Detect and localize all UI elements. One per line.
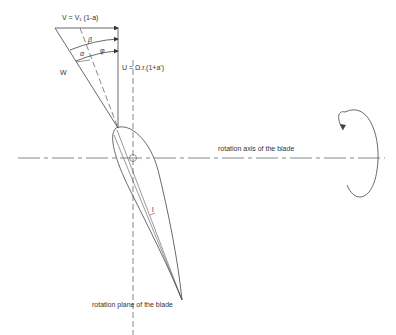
mean-camber-line bbox=[114, 135, 182, 300]
velocity-w-line bbox=[55, 28, 118, 128]
chord-tick bbox=[150, 213, 155, 215]
rotation-plane-label: rotation plane of the blade bbox=[92, 301, 173, 309]
chord-line bbox=[117, 130, 182, 300]
angle-phi-label: φ bbox=[100, 47, 105, 55]
angle-alpha-label: α bbox=[80, 50, 85, 57]
rotation-axis-label: rotation axis of the blade bbox=[218, 145, 294, 152]
rotation-arrow-icon bbox=[339, 110, 378, 197]
angle-beta-arc bbox=[70, 39, 118, 50]
chord-label: l bbox=[152, 206, 154, 213]
angle-beta-label: β bbox=[87, 36, 92, 44]
chord-extension-line bbox=[80, 28, 118, 128]
velocity-u-label: U = Ω.r.(1+a') bbox=[122, 64, 164, 72]
velocity-w-label: W bbox=[60, 69, 67, 76]
blade-element-diagram: V = V₁ (1-a) U = Ω.r.(1+a') W β φ α l ro… bbox=[0, 0, 396, 335]
velocity-v-label: V = V₁ (1-a) bbox=[62, 14, 98, 22]
